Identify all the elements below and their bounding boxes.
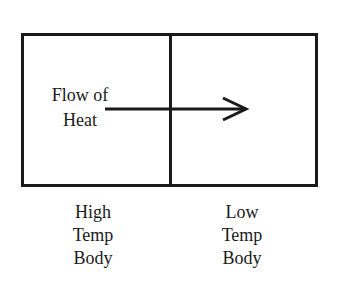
heat-flow-diagram: Flow of Heat High Temp Body Low Temp Bod… bbox=[0, 0, 339, 284]
right-body-line3: Body bbox=[202, 247, 282, 270]
flow-of-heat-label: Flow of Heat bbox=[40, 83, 120, 133]
flow-label-line1: Flow of bbox=[40, 83, 120, 108]
right-body-line2: Temp bbox=[202, 224, 282, 247]
left-body-line2: Temp bbox=[53, 224, 133, 247]
left-body-line3: Body bbox=[53, 247, 133, 270]
high-temp-body-label: High Temp Body bbox=[53, 201, 133, 270]
left-body-line1: High bbox=[53, 201, 133, 224]
low-temp-body-label: Low Temp Body bbox=[202, 201, 282, 270]
right-body-line1: Low bbox=[202, 201, 282, 224]
boundary-divider bbox=[169, 33, 172, 187]
flow-label-line2: Heat bbox=[40, 108, 120, 133]
